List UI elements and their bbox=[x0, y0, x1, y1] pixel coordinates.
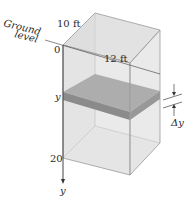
arrow-up-icon bbox=[172, 104, 176, 108]
depth-bottom-label: 20 bbox=[50, 153, 63, 164]
y-axis-arrow-icon bbox=[61, 179, 65, 184]
slab-depth-label: y bbox=[54, 91, 61, 102]
tank-diagram: Ground level 10 ft 12 ft 0 y 20 y Δy bbox=[0, 0, 190, 199]
dim-line-top bbox=[163, 94, 182, 100]
thickness-label: Δy bbox=[170, 117, 184, 128]
width-dimension-label: 10 ft bbox=[57, 18, 81, 29]
length-dimension-label: 12 ft bbox=[104, 53, 128, 64]
arrow-down-icon bbox=[172, 92, 176, 96]
axis-label: y bbox=[59, 185, 66, 196]
origin-label: 0 bbox=[54, 44, 60, 55]
box-front-face bbox=[63, 45, 130, 175]
